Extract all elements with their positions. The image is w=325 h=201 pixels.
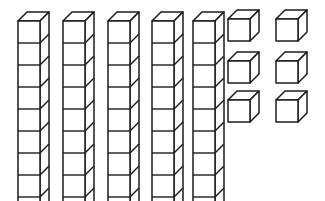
cube-front-face [228, 100, 250, 122]
cube-front-face [276, 100, 298, 122]
rod-5 [193, 12, 224, 201]
rod-right-face [85, 12, 94, 201]
rod-right-face [174, 12, 183, 201]
unit-6 [276, 91, 307, 122]
cube-front-face [276, 61, 298, 83]
cube-front-face [228, 61, 250, 83]
rod-3 [108, 12, 139, 201]
unit-5 [228, 91, 259, 122]
cube-front-face [228, 19, 250, 41]
rod-right-face [40, 12, 49, 201]
rod-front-face [152, 21, 174, 201]
rod-front-face [18, 21, 40, 201]
cube-front-face [276, 19, 298, 41]
base-ten-blocks-figure [0, 0, 325, 201]
rod-4 [152, 12, 183, 201]
blocks-canvas [0, 0, 325, 201]
rod-front-face [108, 21, 130, 201]
unit-2 [276, 10, 307, 41]
unit-3 [228, 52, 259, 83]
rods-group [18, 12, 224, 201]
rod-right-face [215, 12, 224, 201]
rod-2 [63, 12, 94, 201]
rod-front-face [63, 21, 85, 201]
rod-front-face [193, 21, 215, 201]
rod-1 [18, 12, 49, 201]
unit-4 [276, 52, 307, 83]
unit-1 [228, 10, 259, 41]
rod-right-face [130, 12, 139, 201]
